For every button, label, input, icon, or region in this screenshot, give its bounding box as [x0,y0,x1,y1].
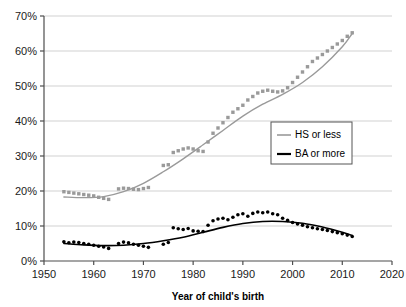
data-point [261,211,265,215]
data-point [142,245,146,249]
legend-label-ba-or-more: BA or more [295,148,345,159]
data-point [201,150,204,153]
x-tick-label-1950: 1950 [32,268,56,280]
data-point [127,241,131,245]
x-tick-label-1990: 1990 [231,268,255,280]
data-point [336,231,340,235]
data-point [182,147,185,150]
data-point [301,70,304,73]
data-point [82,193,85,196]
data-point [351,31,354,34]
data-point [172,151,175,154]
data-point [221,217,225,221]
data-point [97,245,101,249]
data-point [236,213,240,217]
data-point [201,230,205,234]
y-tick-label-60%: 60% [15,45,37,57]
x-tick-label-1980: 1980 [181,268,205,280]
data-point [177,149,180,152]
data-point [221,121,224,124]
data-point [291,221,295,225]
data-point [340,232,344,236]
data-point [147,246,151,250]
data-point [350,235,354,239]
x-tick-label-1960: 1960 [81,268,105,280]
x-tick-label-1970: 1970 [131,268,155,280]
data-point [122,240,126,244]
y-tick-label-70%: 70% [15,10,37,22]
data-point [211,132,214,135]
data-point [326,49,329,52]
data-point [196,149,199,152]
x-axis-title: Year of child's birth [172,291,264,302]
data-point [266,210,270,214]
chart-svg: 0%10%20%30%40%50%60%70% 1950196019701980… [0,0,406,307]
x-tick-label-2020: 2020 [380,268,404,280]
legend-label-hs-or-less: HS or less [295,129,341,140]
data-point [236,107,239,110]
x-tick-label-2000: 2000 [280,268,304,280]
data-point [321,228,325,232]
data-point [117,187,120,190]
data-point [191,147,194,150]
y-tick-label-40%: 40% [15,115,37,127]
data-point [331,230,335,234]
data-point [241,212,245,216]
data-point [346,35,349,38]
data-point [62,240,66,244]
data-point [132,188,135,191]
data-point [82,242,86,246]
data-point [246,214,250,218]
data-point [316,56,319,59]
y-tick-label-10%: 10% [15,220,37,232]
data-point [271,90,274,93]
data-point [226,116,229,119]
data-point [251,212,255,216]
legend: HS or lessBA or more [271,122,352,164]
data-point [251,95,254,98]
data-point [306,225,310,229]
data-point [137,243,141,247]
y-tick-label-30%: 30% [15,150,37,162]
data-point [87,194,90,197]
data-point [186,227,190,231]
data-point [77,241,81,245]
chart-container: 0%10%20%30%40%50%60%70% 1950196019701980… [0,0,406,307]
data-point [286,219,290,223]
x-tick-label-2010: 2010 [330,268,354,280]
data-point [92,243,96,247]
data-point [107,247,111,251]
data-point [246,98,249,101]
data-point [231,215,235,219]
data-point [67,241,71,245]
data-point [132,242,136,246]
data-point [326,229,330,233]
data-point [256,210,260,214]
data-point [191,229,195,233]
data-point [171,226,175,230]
data-point [271,212,275,216]
data-point [166,241,170,245]
data-point [345,233,349,237]
data-point [206,224,210,228]
data-point [296,222,300,226]
data-point [216,217,220,221]
data-point [62,190,65,193]
data-point [72,240,76,244]
data-point [167,163,170,166]
data-point [77,192,80,195]
data-point [301,224,305,228]
data-point [296,76,299,79]
data-point [181,228,185,232]
data-point [311,226,315,230]
data-point [142,187,145,190]
data-point [336,42,339,45]
data-point [281,89,284,92]
data-point [316,227,320,231]
data-point [211,219,215,223]
data-point [226,218,230,222]
data-point [281,217,285,221]
data-point [87,242,91,246]
data-point [137,188,140,191]
data-point [341,39,344,42]
